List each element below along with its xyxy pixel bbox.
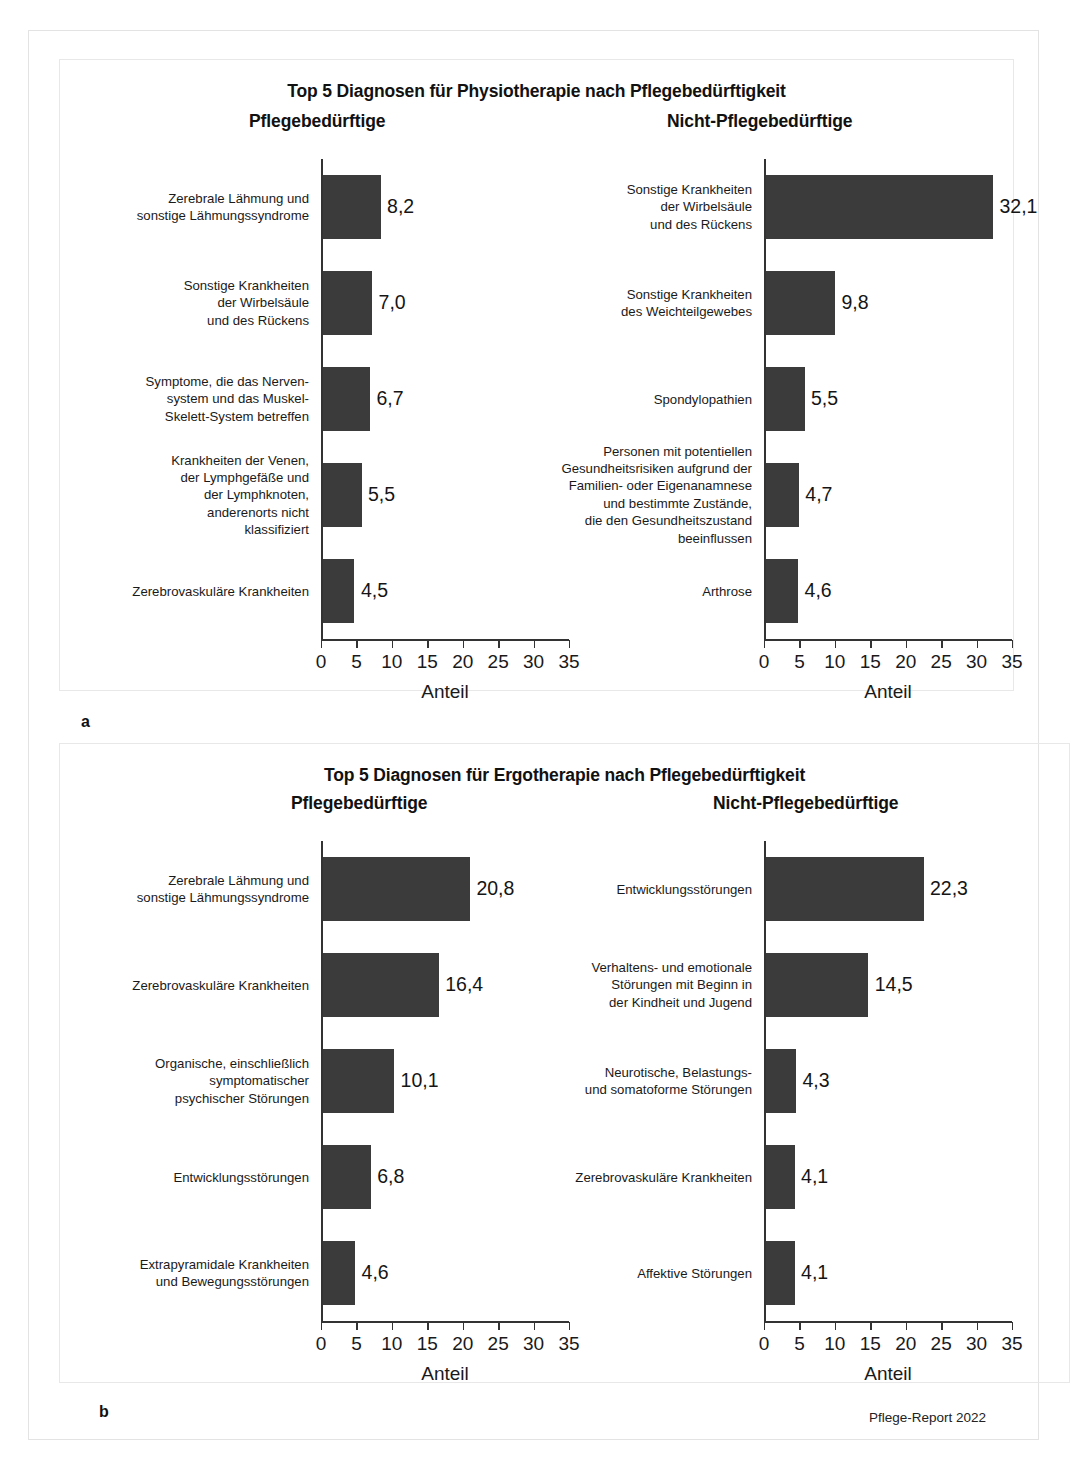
- x-axis-tick: [498, 1322, 499, 1330]
- x-axis-tick: [977, 1322, 978, 1330]
- x-axis-line: [764, 1321, 1012, 1323]
- x-axis-tick-label: 25: [931, 1333, 952, 1355]
- bar-value-label: 5,5: [368, 485, 395, 505]
- x-axis-tick: [321, 640, 322, 648]
- x-axis-tick: [1012, 1322, 1013, 1330]
- bar-value-label: 4,5: [361, 581, 388, 601]
- bar: [766, 1145, 795, 1208]
- bar-value-label: 4,1: [801, 1167, 828, 1187]
- category-label: Spondylopathien: [542, 391, 752, 408]
- x-axis-tick: [321, 1322, 322, 1330]
- category-label: Zerebrale Lähmung und sonstige Lähmungss…: [99, 190, 309, 225]
- bar: [323, 559, 355, 622]
- category-label: Zerebrale Lähmung und sonstige Lähmungss…: [99, 872, 309, 907]
- x-axis-tick-label: 5: [794, 651, 805, 673]
- x-axis-tick: [906, 1322, 907, 1330]
- bar: [323, 953, 439, 1016]
- x-axis-tick-label: 25: [488, 651, 509, 673]
- x-axis-tick: [534, 640, 535, 648]
- x-axis-tick-label: 30: [523, 651, 544, 673]
- x-axis-tick: [941, 640, 942, 648]
- category-label: Organische, einschließlich symptomatisch…: [99, 1055, 309, 1107]
- x-axis-title: Anteil: [864, 1363, 912, 1385]
- figure-panel-b: Top 5 Diagnosen für Ergotherapie nach Pf…: [59, 743, 1070, 1383]
- x-axis-tick-label: 20: [452, 1333, 473, 1355]
- category-label: Verhaltens- und emotionale Störungen mit…: [542, 959, 752, 1011]
- x-axis-tick-label: 15: [417, 1333, 438, 1355]
- source-note: Pflege-Report 2022: [869, 1410, 986, 1425]
- x-axis-tick: [977, 640, 978, 648]
- bar-value-label: 4,7: [805, 485, 832, 505]
- bar: [766, 1241, 795, 1304]
- bar-value-label: 16,4: [445, 975, 483, 995]
- x-axis-tick: [392, 640, 393, 648]
- x-axis-tick-label: 20: [452, 651, 473, 673]
- x-axis-tick: [799, 1322, 800, 1330]
- bar: [323, 1145, 371, 1208]
- x-axis-line: [321, 1321, 569, 1323]
- chart-b-right: 05101520253035Anteil22,3Entwicklungsstör…: [764, 841, 1012, 1321]
- bar-value-label: 22,3: [930, 879, 968, 899]
- x-axis-tick: [1012, 640, 1013, 648]
- x-axis-tick-label: 35: [558, 651, 579, 673]
- category-label: Sonstige Krankheiten der Wirbelsäule und…: [99, 277, 309, 329]
- bar: [766, 1049, 796, 1112]
- x-axis-line: [764, 639, 1012, 641]
- panel-a-right-subtitle: Nicht-Pflegebedürftige: [667, 111, 852, 132]
- bar: [323, 1241, 356, 1304]
- x-axis-tick-label: 5: [794, 1333, 805, 1355]
- panel-letter-a: a: [81, 713, 90, 731]
- category-label: Neurotische, Belastungs- und somatoforme…: [542, 1064, 752, 1099]
- x-axis-tick-label: 30: [966, 651, 987, 673]
- x-axis-tick-label: 30: [966, 1333, 987, 1355]
- category-label: Arthrose: [542, 583, 752, 600]
- x-axis-tick-label: 5: [351, 651, 362, 673]
- x-axis-tick: [764, 1322, 765, 1330]
- x-axis-line: [321, 639, 569, 641]
- category-label: Entwicklungsstörungen: [542, 881, 752, 898]
- x-axis-tick-label: 10: [381, 651, 402, 673]
- bar: [323, 857, 470, 920]
- bar: [323, 175, 381, 238]
- category-label: Sonstige Krankheiten der Wirbelsäule und…: [542, 181, 752, 233]
- bar: [323, 271, 373, 334]
- figure-panel-a: Top 5 Diagnosen für Physiotherapie nach …: [59, 59, 1014, 691]
- bar-value-label: 9,8: [841, 293, 868, 313]
- x-axis-tick-label: 15: [417, 651, 438, 673]
- x-axis-tick: [764, 640, 765, 648]
- category-label: Affektive Störungen: [542, 1265, 752, 1282]
- x-axis-tick: [392, 1322, 393, 1330]
- bar: [766, 463, 799, 526]
- bar-value-label: 7,0: [379, 293, 406, 313]
- category-label: Sonstige Krankheiten des Weichteilgewebe…: [542, 286, 752, 321]
- x-axis-tick-label: 15: [860, 1333, 881, 1355]
- category-label: Personen mit potentiellen Gesundheitsris…: [542, 443, 752, 548]
- x-axis-tick-label: 0: [759, 1333, 770, 1355]
- category-label: Extrapyramidale Krankheiten und Bewegung…: [99, 1256, 309, 1291]
- bar-value-label: 4,6: [362, 1263, 389, 1283]
- x-axis-tick: [356, 640, 357, 648]
- panel-letter-b: b: [99, 1403, 109, 1421]
- chart-b-left: 05101520253035Anteil20,8Zerebrale Lähmun…: [321, 841, 569, 1321]
- bar: [766, 953, 869, 1016]
- bar: [766, 271, 835, 334]
- x-axis-title: Anteil: [421, 1363, 469, 1385]
- x-axis-tick: [941, 1322, 942, 1330]
- bar: [766, 175, 993, 238]
- x-axis-tick: [498, 640, 499, 648]
- x-axis-tick: [870, 640, 871, 648]
- bar-value-label: 32,1: [999, 197, 1037, 217]
- category-label: Symptome, die das Nerven- system und das…: [99, 373, 309, 425]
- category-label: Zerebrovaskuläre Krankheiten: [99, 583, 309, 600]
- bar-value-label: 20,8: [476, 879, 514, 899]
- category-label: Krankheiten der Venen, der Lymphgefäße u…: [99, 452, 309, 539]
- x-axis-tick-label: 15: [860, 651, 881, 673]
- bar-value-label: 4,6: [805, 581, 832, 601]
- panel-b-right-subtitle: Nicht-Pflegebedürftige: [713, 793, 898, 814]
- category-label: Zerebrovaskuläre Krankheiten: [99, 977, 309, 994]
- x-axis-tick-label: 5: [351, 1333, 362, 1355]
- x-axis-tick: [463, 640, 464, 648]
- x-axis-tick: [427, 1322, 428, 1330]
- bar-value-label: 4,1: [801, 1263, 828, 1283]
- x-axis-tick: [906, 640, 907, 648]
